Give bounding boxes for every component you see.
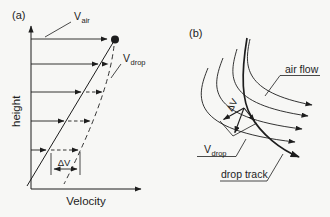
- v-drop-a-main: V: [123, 52, 130, 64]
- v-drop-label-b: Vdrop: [204, 143, 227, 158]
- v-air-main: V: [74, 10, 81, 22]
- delta-v-label-a: ΔV: [58, 157, 71, 168]
- streamline: [201, 68, 295, 142]
- air-velocity-vector: [244, 108, 255, 121]
- panel-b-tag: (b): [189, 27, 202, 39]
- drop-velocity-profile-line: [64, 46, 114, 184]
- y-axis-label: height: [10, 95, 22, 127]
- panel-a-velocity-profile: (a) height Velocity: [10, 9, 146, 207]
- v-drop-b-main: V: [204, 143, 211, 155]
- release-point-dot: [111, 36, 119, 44]
- drop-velocity-arrows: [51, 64, 108, 150]
- v-drop-label-a: Vdrop: [123, 52, 146, 67]
- x-axis-label: Velocity: [66, 195, 106, 207]
- v-drop-a-sub: drop: [131, 58, 146, 67]
- v-air-leader-line: [45, 22, 71, 37]
- v-air-sub: air: [82, 16, 91, 25]
- air-velocity-profile-line: [27, 41, 114, 186]
- panel-b-airflow-drop-track: (b) ΔV air flow Vdrop drop track: [189, 27, 320, 181]
- delta-v-bracket: ΔV: [51, 152, 80, 175]
- air-velocity-arrows: [31, 39, 107, 150]
- figure-wind-shear-drop-diagram: (a) height Velocity: [0, 0, 330, 217]
- v-air-label: Vair: [74, 10, 90, 25]
- drop-track-curve: [243, 38, 299, 157]
- v-drop-a-leader-line: [111, 64, 121, 78]
- streamlines: [201, 39, 312, 142]
- diagram-canvas: (a) height Velocity: [0, 0, 330, 217]
- parallelogram-side-left: [220, 121, 233, 136]
- delta-v-label-b: ΔV: [224, 96, 240, 113]
- drop-track-label: drop track: [221, 168, 268, 180]
- air-flow-label: air flow: [285, 63, 319, 75]
- panel-a-tag: (a): [12, 9, 25, 21]
